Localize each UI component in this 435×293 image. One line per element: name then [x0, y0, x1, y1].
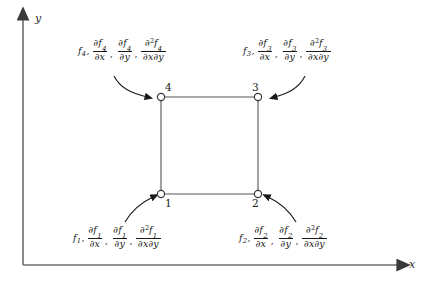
annotation-node-2: f2, ∂f2 ∂x , ∂f2 ∂y , ∂2f2 ∂x∂y: [239, 225, 328, 250]
annotation-2-df-dx: ∂f2 ∂x ,: [251, 225, 276, 250]
annotation-3-d2f-dxdy: ∂2f3 ∂x∂y: [305, 38, 332, 63]
annotation-4-df-dx: ∂f4 ∂x ,: [90, 38, 115, 63]
annotation-3-df-dx: ∂f3 ∂x ,: [255, 38, 280, 63]
x-axis-label: x: [409, 258, 415, 271]
annotation-2-df-dy: ∂f2 ∂y ,: [276, 225, 301, 250]
annotation-1-value: f1,: [73, 232, 85, 243]
annotation-1-df-dy: ∂f1 ∂y ,: [110, 225, 135, 250]
node-marker-1: [157, 190, 164, 197]
node-label-2: 2: [252, 197, 259, 209]
node-label-1: 1: [165, 197, 172, 209]
node-label-3: 3: [252, 81, 259, 93]
annotation-node-4: f4, ∂f4 ∂x , ∂f4 ∂y , ∂2f4 ∂x∂y: [78, 38, 167, 63]
annotation-1-d2f-dxdy: ∂2f1 ∂x∂y: [135, 225, 162, 250]
annotation-3-df-dy: ∂f3 ∂y ,: [280, 38, 305, 63]
arrow-to-node-4: [114, 76, 147, 97]
node-marker-4: [157, 93, 164, 100]
node-label-4: 4: [165, 81, 172, 93]
annotation-node-3: f3, ∂f3 ∂x , ∂f3 ∂y , ∂2f3 ∂x∂y: [243, 38, 332, 63]
annotation-node-1: f1, ∂f1 ∂x , ∂f1 ∂y , ∂2f1 ∂x∂y: [73, 225, 162, 250]
annotation-4-d2f-dxdy: ∂2f4 ∂x∂y: [140, 38, 167, 63]
annotation-3-value: f3,: [243, 45, 255, 56]
annotation-1-df-dx: ∂f1 ∂x ,: [85, 225, 110, 250]
arrow-to-node-3: [275, 76, 305, 97]
annotation-2-value: f2,: [239, 232, 251, 243]
annotation-2-d2f-dxdy: ∂2f2 ∂x∂y: [301, 225, 328, 250]
diagram-vector-layer: [0, 0, 435, 293]
annotation-4-value: f4,: [78, 45, 90, 56]
diagram-canvas: y x 4 3 1 2 f4, ∂f4 ∂x , ∂f4 ∂y , ∂2f4 ∂…: [0, 0, 435, 293]
arrow-to-node-1: [125, 197, 153, 222]
annotation-4-df-dy: ∂f4 ∂y ,: [115, 38, 140, 63]
node-marker-3: [254, 93, 261, 100]
arrow-to-node-2: [268, 197, 296, 222]
y-axis-label: y: [35, 12, 41, 25]
